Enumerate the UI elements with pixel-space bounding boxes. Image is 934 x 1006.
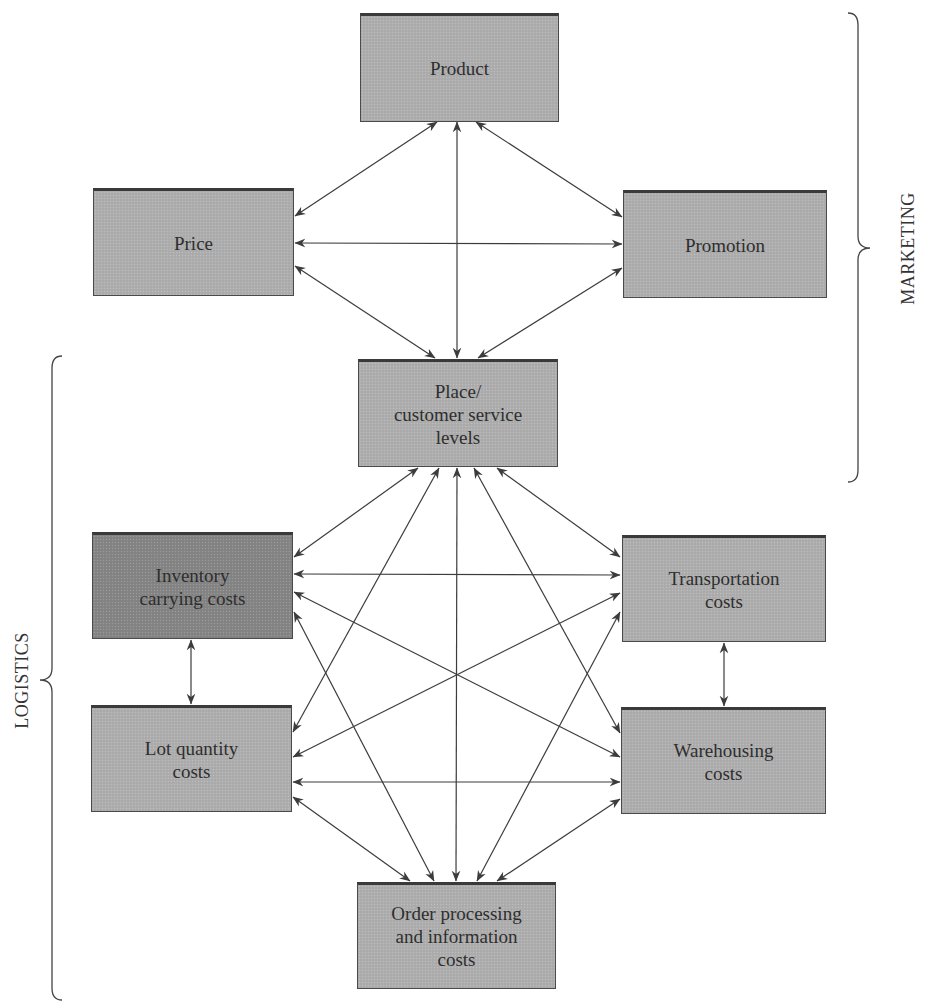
arrow-transportation-lot xyxy=(293,593,620,757)
arrow-lot-order xyxy=(293,797,410,881)
arrow-inventory-warehousing xyxy=(294,592,620,757)
arrow-product-price xyxy=(295,122,437,216)
node-transportation: Transportation costs xyxy=(622,535,826,642)
arrow-transportation-order xyxy=(477,612,620,881)
arrow-place-transportation xyxy=(497,468,620,557)
node-inventory: Inventory carrying costs xyxy=(92,532,293,639)
node-order: Order processing and information costs xyxy=(357,882,556,989)
arrow-product-promotion xyxy=(476,122,622,217)
node-price: Price xyxy=(93,188,294,296)
node-promotion: Promotion xyxy=(623,190,827,298)
node-warehousing-label: Warehousing costs xyxy=(668,739,780,785)
node-transportation-label: Transportation costs xyxy=(662,567,785,613)
node-lot-label: Lot quantity costs xyxy=(139,737,244,783)
node-lot: Lot quantity costs xyxy=(91,705,292,812)
node-place: Place/ customer service levels xyxy=(358,359,558,467)
arrow-place-order xyxy=(456,468,457,881)
arrow-inventory-order xyxy=(294,612,434,881)
arrow-place-warehousing xyxy=(474,468,620,733)
node-order-label: Order processing and information costs xyxy=(385,902,527,971)
logistics-marketing-diagram: Product Price Promotion Place/ customer … xyxy=(0,0,934,1006)
node-product: Product xyxy=(360,13,559,122)
arrow-promotion-place xyxy=(478,268,622,358)
arrow-layer xyxy=(0,0,934,1006)
arrow-inventory-transportation xyxy=(294,574,620,575)
arrow-warehousing-order xyxy=(497,799,620,881)
node-inventory-label: Inventory carrying costs xyxy=(133,564,251,610)
node-product-label: Product xyxy=(424,57,495,80)
marketing-group-label: MARKETING xyxy=(897,192,918,305)
node-place-label: Place/ customer service levels xyxy=(388,380,528,449)
node-price-label: Price xyxy=(168,232,219,255)
node-warehousing: Warehousing costs xyxy=(621,707,826,814)
arrow-price-place xyxy=(295,266,435,358)
logistics-brace xyxy=(40,356,62,1000)
arrow-place-lot xyxy=(293,468,439,732)
node-promotion-label: Promotion xyxy=(679,234,771,257)
logistics-group-label: LOGISTICS xyxy=(11,632,32,729)
arrow-place-inventory xyxy=(294,468,418,557)
arrow-price-promotion xyxy=(295,243,622,244)
marketing-brace xyxy=(848,13,870,482)
clipped-caption xyxy=(0,0,400,9)
